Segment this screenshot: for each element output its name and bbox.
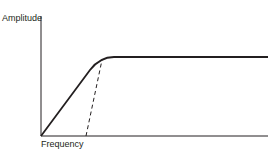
chart-plot bbox=[0, 0, 278, 154]
response-curve bbox=[41, 57, 268, 136]
